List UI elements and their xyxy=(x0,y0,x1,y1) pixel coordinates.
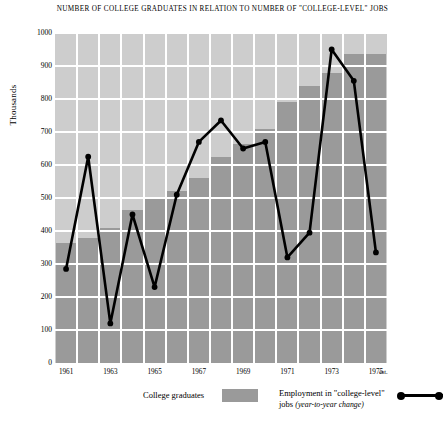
y-tick-200: 200 xyxy=(12,293,52,301)
line-point-1961 xyxy=(63,266,69,272)
line-point-1964 xyxy=(130,212,136,218)
y-tick-500: 500 xyxy=(12,194,52,202)
y-tick-0: 0 xyxy=(12,359,52,367)
x-tick-1967: 1967 xyxy=(179,368,219,376)
legend-line-dot-left xyxy=(397,392,405,400)
legend-bars-label: College graduates xyxy=(143,390,204,400)
line-point-1967 xyxy=(196,139,202,145)
x-tick-1975: 1975 xyxy=(356,368,396,376)
y-axis-label: Thousands xyxy=(8,60,18,150)
legend-line-dot-right xyxy=(435,392,443,400)
line-point-1970 xyxy=(262,139,268,145)
line-point-1963 xyxy=(107,321,113,327)
y-tick-600: 600 xyxy=(12,161,52,169)
legend-line-label-line1: Employment in "college-level" xyxy=(279,388,385,398)
x-tick-1971: 1971 xyxy=(267,368,307,376)
line-point-1965 xyxy=(152,284,158,290)
y-tick-100: 100 xyxy=(12,326,52,334)
y-tick-700: 700 xyxy=(12,128,52,136)
x-tick-1963: 1963 xyxy=(90,368,130,376)
legend-line-label: Employment in "college-level" jobs (year… xyxy=(279,388,399,410)
line-point-1975 xyxy=(373,250,379,256)
x-tick-est-note: est. xyxy=(379,368,388,375)
x-tick-1973: 1973 xyxy=(312,368,352,376)
line-point-1971 xyxy=(285,255,291,261)
line-point-1973 xyxy=(329,47,335,53)
chart-legend: College graduates Employment in "college… xyxy=(0,386,445,422)
chart-root: NUMBER OF COLLEGE GRADUATES IN RELATION … xyxy=(0,0,445,425)
chart-title: NUMBER OF COLLEGE GRADUATES IN RELATION … xyxy=(0,5,445,13)
line-point-1974 xyxy=(351,78,357,84)
y-tick-1000: 1000 xyxy=(12,29,52,37)
y-tick-800: 800 xyxy=(12,95,52,103)
x-tick-1969: 1969 xyxy=(223,368,263,376)
legend-bars-swatch xyxy=(222,389,258,402)
line-point-1966 xyxy=(174,192,180,198)
y-tick-400: 400 xyxy=(12,227,52,235)
line-point-1969 xyxy=(240,146,246,152)
y-tick-300: 300 xyxy=(12,260,52,268)
x-tick-1965: 1965 xyxy=(135,368,175,376)
line-path xyxy=(66,50,376,324)
line-point-1968 xyxy=(218,118,224,124)
line-point-1962 xyxy=(85,154,91,160)
line-point-1972 xyxy=(307,230,313,236)
legend-line-label-italic: (year-to-year change) xyxy=(295,400,363,409)
legend-line-label-line2: jobs xyxy=(279,399,295,409)
y-tick-900: 900 xyxy=(12,62,52,70)
line-series xyxy=(55,33,387,363)
x-tick-1961: 1961 xyxy=(46,368,86,376)
